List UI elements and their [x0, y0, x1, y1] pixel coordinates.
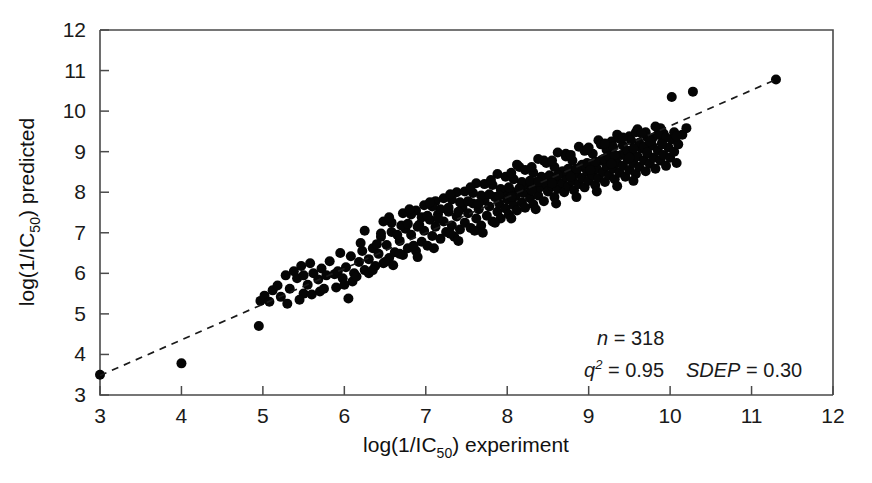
data-point	[409, 241, 419, 251]
data-point	[433, 214, 443, 224]
data-point	[466, 182, 476, 192]
data-point	[422, 211, 432, 221]
y-tick-label: 12	[63, 18, 86, 41]
data-point	[628, 176, 638, 186]
annotation-n: n = 318	[597, 327, 664, 349]
data-point	[624, 153, 634, 163]
data-point	[176, 358, 186, 368]
data-point	[305, 258, 315, 268]
figure-page: 3456789101112 3456789101112 log(1/IC50) …	[0, 0, 872, 483]
data-point	[403, 219, 413, 229]
y-tick-label: 8	[74, 180, 86, 203]
y-tick-label: 10	[63, 99, 86, 122]
data-point	[527, 162, 537, 172]
data-point	[657, 139, 667, 149]
y-tick-label: 9	[74, 140, 86, 163]
x-tick-label: 8	[501, 404, 513, 427]
annotation-sdep: SDEP = 0.30	[686, 359, 802, 381]
data-point	[490, 218, 500, 228]
data-point	[425, 197, 435, 207]
x-tick-label: 10	[658, 404, 681, 427]
data-point	[606, 159, 616, 169]
y-tick-label: 6	[74, 261, 86, 284]
data-point	[484, 189, 494, 199]
x-tick-label: 6	[338, 404, 350, 427]
data-point	[372, 239, 382, 249]
data-point	[547, 178, 557, 188]
data-point	[285, 284, 295, 294]
data-point	[339, 280, 349, 290]
data-point	[445, 189, 455, 199]
data-point	[299, 270, 309, 280]
data-point	[335, 248, 345, 258]
data-point	[681, 123, 691, 133]
data-point	[346, 251, 356, 261]
data-point	[395, 249, 405, 259]
x-tick-label: 3	[94, 404, 106, 427]
data-point	[547, 156, 557, 166]
y-tick-label: 7	[74, 221, 86, 244]
data-point	[672, 158, 682, 168]
data-point	[343, 293, 353, 303]
data-point	[404, 204, 414, 214]
data-point	[413, 222, 423, 232]
data-point	[352, 272, 362, 282]
data-point	[307, 289, 317, 299]
data-point	[319, 284, 329, 294]
data-point	[628, 143, 638, 153]
data-point	[282, 299, 292, 309]
x-tick-label: 11	[741, 404, 763, 427]
data-point	[380, 257, 390, 267]
x-tick-label: 4	[176, 404, 188, 427]
data-point	[474, 199, 484, 209]
data-point	[486, 175, 496, 185]
data-point	[582, 145, 592, 155]
data-point	[453, 236, 463, 246]
data-point	[273, 281, 283, 291]
data-point	[413, 252, 423, 262]
data-point	[506, 168, 516, 178]
data-point	[672, 131, 682, 141]
data-point	[254, 321, 264, 331]
data-point	[667, 92, 677, 102]
data-point	[645, 137, 655, 147]
y-tick-label: 11	[64, 59, 86, 82]
data-point	[325, 256, 335, 266]
data-point	[384, 212, 394, 222]
data-point	[539, 196, 549, 206]
data-point	[566, 172, 576, 182]
data-point	[610, 150, 620, 160]
data-point	[360, 226, 370, 236]
data-point	[637, 128, 647, 138]
data-point	[494, 190, 504, 200]
data-point	[429, 243, 439, 253]
data-point	[356, 238, 366, 248]
x-tick-label: 12	[821, 404, 844, 427]
data-point	[650, 122, 660, 132]
data-point	[531, 204, 541, 214]
data-point	[688, 87, 698, 97]
x-tick-label: 5	[257, 404, 269, 427]
data-point	[444, 203, 454, 213]
data-point	[506, 214, 516, 224]
data-point	[771, 74, 781, 84]
data-point	[612, 181, 622, 191]
y-tick-label: 4	[74, 342, 86, 365]
data-point	[296, 261, 306, 271]
y-tick-label: 5	[74, 302, 86, 325]
scatter-plot-figure: 3456789101112 3456789101112 log(1/IC50) …	[0, 0, 872, 483]
y-tick-label: 3	[74, 383, 86, 406]
data-point	[368, 265, 378, 275]
data-point	[295, 295, 305, 305]
data-point	[376, 229, 386, 239]
data-point	[341, 262, 351, 272]
data-point	[392, 230, 402, 240]
x-tick-label: 7	[420, 404, 432, 427]
data-point	[478, 228, 488, 238]
data-point	[585, 165, 595, 175]
data-point	[642, 147, 652, 157]
x-tick-label: 9	[583, 404, 595, 427]
data-point	[592, 186, 602, 196]
data-point	[453, 207, 463, 217]
data-point	[504, 182, 514, 192]
